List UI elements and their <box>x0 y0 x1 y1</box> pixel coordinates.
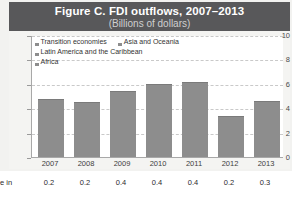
bar-segment <box>38 99 64 102</box>
bar-group <box>110 92 136 157</box>
footer-row-label: e in <box>0 178 12 188</box>
y-tick-label-4: 4 <box>274 105 290 113</box>
legend-item-latin-america-and-the-caribbean: Latin America and the Caribbean <box>35 47 142 57</box>
bar-segment <box>146 84 172 90</box>
figure-container: Figure C. FDI outflows, 2007–2013 (Billi… <box>0 0 292 197</box>
bar-segment <box>110 101 136 157</box>
footer-value: 0.4 <box>103 178 139 188</box>
legend-swatch-asia-and-oceania <box>118 43 122 47</box>
x-tick-label-2012: 2012 <box>212 159 248 169</box>
legend-item-asia-and-oceania: Asia and Oceania <box>118 37 179 47</box>
bar-segment <box>218 116 244 119</box>
bar-segment <box>74 102 100 105</box>
bar-segment <box>182 89 208 157</box>
legend-swatch-africa <box>35 63 39 67</box>
bar-segment <box>110 91 136 97</box>
legend-row-1: Transition economies Asia and Oceania <box>35 37 250 47</box>
footer-value: 0.3 <box>247 178 283 188</box>
chart-card: 0246810 Transition economies Asia and Oc… <box>9 31 290 169</box>
figure-subtitle: (Billions of dollars) <box>9 18 290 30</box>
legend-label-africa: Africa <box>41 57 59 67</box>
bar-group <box>38 100 64 157</box>
x-tick-label-2010: 2010 <box>140 159 176 169</box>
bar-segment <box>182 82 208 88</box>
x-tick-label-2007: 2007 <box>32 159 68 169</box>
x-tick-label-2013: 2013 <box>248 159 284 169</box>
y-tick-mark-6 <box>27 85 31 86</box>
y-tick-mark-2 <box>27 134 31 135</box>
bar-segment <box>218 119 244 157</box>
legend-item-transition-economies: Transition economies <box>35 37 107 47</box>
figure-title: Figure C. FDI outflows, 2007–2013 <box>9 2 290 18</box>
bar-segment <box>74 106 100 157</box>
x-tick-label-2008: 2008 <box>68 159 104 169</box>
footer-value: 0.2 <box>67 178 103 188</box>
x-tick-label-2009: 2009 <box>104 159 140 169</box>
bar-segment <box>146 89 172 97</box>
footer-data-row: e in 0.20.20.40.40.40.20.3 <box>0 171 292 197</box>
y-tick-label-10: 10 <box>274 32 290 40</box>
y-tick-label-2: 2 <box>274 130 290 138</box>
legend-swatch-transition-economies <box>35 43 39 47</box>
y-tick-label-6: 6 <box>274 81 290 89</box>
legend-item-africa: Africa <box>35 57 58 67</box>
bar-group <box>146 85 172 157</box>
bar-segment <box>38 102 64 157</box>
legend-label-transition-economies: Transition economies <box>41 37 107 47</box>
legend-label-latin-america-and-the-caribbean: Latin America and the Caribbean <box>41 47 143 57</box>
bar-group <box>218 117 244 157</box>
figure-title-band: Figure C. FDI outflows, 2007–2013 (Billi… <box>9 2 290 31</box>
x-tick-label-2011: 2011 <box>176 159 212 169</box>
bar-group <box>74 103 100 157</box>
y-tick-mark-4 <box>27 109 31 110</box>
legend-row-3: Africa <box>35 57 250 67</box>
legend-label-asia-and-oceania: Asia and Oceania <box>124 37 179 47</box>
legend-row-2: Latin America and the Caribbean <box>35 47 250 57</box>
footer-value: 0.2 <box>31 178 67 188</box>
legend-swatch-latin-america-and-the-caribbean <box>35 53 39 57</box>
y-tick-mark-10 <box>27 36 31 37</box>
x-axis-labels: 2007200820092010201120122013 <box>32 159 284 171</box>
y-tick-mark-0 <box>27 158 31 159</box>
chart-legend: Transition economies Asia and Oceania La… <box>35 37 250 67</box>
bar-group <box>182 83 208 157</box>
footer-value: 0.2 <box>211 178 247 188</box>
footer-value: 0.4 <box>175 178 211 188</box>
bar-segment <box>146 97 172 157</box>
y-tick-label-8: 8 <box>274 56 290 64</box>
footer-value: 0.4 <box>139 178 175 188</box>
y-tick-mark-8 <box>27 60 31 61</box>
